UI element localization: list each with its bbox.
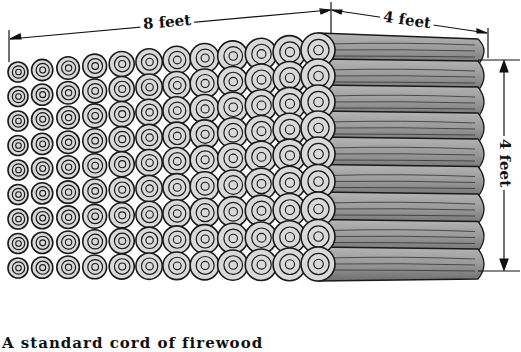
- log-ends: [8, 33, 335, 281]
- log-sides: [318, 33, 484, 281]
- length-dimension-label: 8 feet: [139, 12, 194, 33]
- height-dimension-label: 4 feet: [497, 136, 513, 190]
- figure-caption: A standard cord of firewood: [2, 334, 263, 352]
